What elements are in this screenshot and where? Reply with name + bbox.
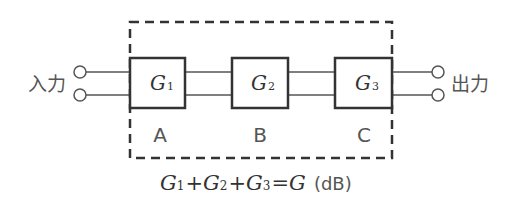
amplifier-diagram: G1 G2 G3 A B C 入力 出力 G1+G2+G3=G(dB) — [0, 0, 505, 212]
output-label: 出力 — [451, 73, 489, 95]
input-terminals — [74, 66, 130, 101]
stage-a-label: A — [153, 123, 167, 147]
gain-formula: G1+G2+G3=G(dB) — [160, 171, 352, 195]
stage-b-label: B — [253, 123, 267, 147]
output-terminal-top-icon — [432, 66, 444, 78]
input-terminal-bottom-icon — [74, 89, 86, 101]
input-terminal-top-icon — [74, 66, 86, 78]
output-terminals — [392, 66, 444, 101]
input-label: 入力 — [28, 73, 66, 95]
stage-c-label: C — [357, 123, 371, 147]
output-terminal-bottom-icon — [432, 89, 444, 101]
